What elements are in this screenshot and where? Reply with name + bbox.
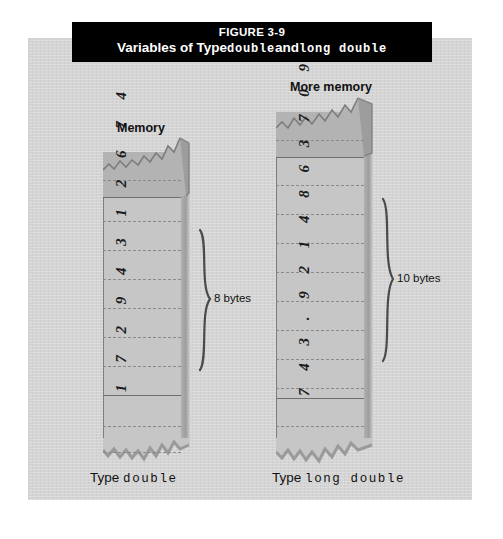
figure-title-type-double: double bbox=[227, 42, 275, 56]
caption-double-prefix: Type bbox=[90, 470, 119, 485]
caption-long-double-type: long double bbox=[305, 472, 405, 486]
cell-divider-double-c bbox=[103, 452, 181, 453]
figure-container: FIGURE 3-9 Variables of Typedoubleandlon… bbox=[0, 0, 503, 539]
cell-divider-ld-6 bbox=[276, 330, 364, 331]
paper-texture bbox=[28, 38, 472, 500]
caption-double: Type double bbox=[90, 470, 178, 486]
cell-divider-ld-4 bbox=[276, 272, 364, 273]
cell-divider-ld-7 bbox=[276, 359, 364, 360]
memory-column-long-double: 7 4 3 . 9 2 1 4 8 6 3 7 0 9 bbox=[276, 60, 386, 470]
caption-long-double: Type long double bbox=[272, 470, 405, 486]
cell-boundary-ld-top bbox=[276, 157, 364, 158]
memory-label-long-double: More memory bbox=[290, 80, 372, 94]
cell-divider-ld-b bbox=[276, 426, 364, 427]
column-body-long-double bbox=[276, 112, 365, 445]
cell-divider-ld-2 bbox=[276, 214, 364, 215]
memory-column-double: 1 7 2 9 4 3 1 2 6 7 4 bbox=[103, 100, 203, 470]
column-edge-long-double bbox=[364, 108, 373, 445]
figure-title-type-long-double: long double bbox=[299, 42, 387, 56]
size-label-long-double: 10 bytes bbox=[397, 272, 440, 284]
cell-boundary-double-bottom bbox=[103, 395, 181, 396]
cell-divider-ld-3 bbox=[276, 243, 364, 244]
jagged-top-edge-long-double bbox=[276, 96, 380, 158]
stored-value-long-double: 7 4 3 . 9 2 1 4 8 6 3 7 0 9 bbox=[296, 57, 313, 396]
memory-label-double: Memory bbox=[117, 121, 165, 135]
caption-double-type: double bbox=[123, 472, 178, 486]
cell-divider-ld-5 bbox=[276, 301, 364, 302]
cell-divider-ld-8 bbox=[276, 388, 364, 389]
cell-divider-ld-a bbox=[276, 140, 364, 141]
figure-title-conjunction: and bbox=[275, 40, 299, 55]
figure-number: FIGURE 3-9 bbox=[72, 25, 432, 39]
figure-title-prefix: Variables of Type bbox=[117, 40, 227, 55]
size-label-double: 8 bytes bbox=[214, 292, 251, 304]
cell-divider-double-b bbox=[103, 426, 181, 427]
page-panel bbox=[28, 38, 472, 500]
cell-divider-ld-1 bbox=[276, 185, 364, 186]
figure-title-bar: FIGURE 3-9 Variables of Typedoubleandlon… bbox=[72, 22, 432, 62]
caption-long-double-prefix: Type bbox=[272, 470, 301, 485]
cell-boundary-ld-bottom bbox=[276, 398, 364, 399]
figure-title: Variables of Typedoubleandlong double bbox=[72, 39, 432, 58]
